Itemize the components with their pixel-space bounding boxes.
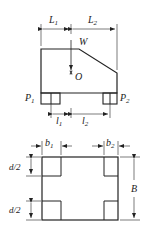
plan-view [26, 141, 140, 220]
label-W: W [79, 36, 89, 47]
label-P1: P1 [24, 92, 35, 105]
label-l2: l2 [82, 115, 89, 128]
pad-top-left [42, 157, 61, 176]
label-L2: L2 [87, 14, 98, 27]
label-P2: P2 [119, 92, 130, 105]
label-b1: b1 [45, 137, 54, 150]
plan-outline [42, 157, 118, 220]
label-l1: l1 [56, 115, 62, 128]
label-d2-bottom: d/2 [9, 205, 21, 215]
label-L1: L1 [48, 14, 58, 27]
engineering-drawing: L1 L2 W O P1 P2 l1 l2 b1 b2 [0, 0, 149, 234]
pad-bottom-right [104, 201, 118, 220]
label-B: B [131, 183, 137, 194]
label-b2: b2 [106, 137, 115, 150]
label-d2-top: d/2 [9, 162, 21, 172]
pad-bottom-left [42, 201, 61, 220]
pad-top-right [104, 157, 118, 176]
label-O: O [75, 71, 82, 82]
